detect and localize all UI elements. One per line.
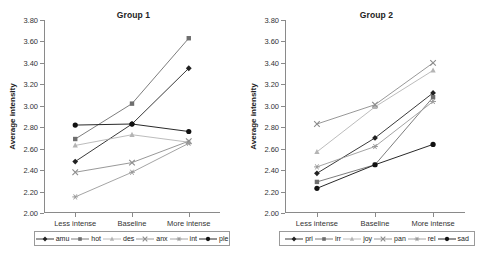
legend-marker-square-icon [70,234,90,244]
data-point-marker-asterisk [176,236,181,240]
y-axis-tick-label: 3.60 [264,37,279,46]
series-line [75,141,189,172]
y-axis-tick-label: 3.80 [264,16,279,25]
legend-item-pan[interactable]: pan [373,234,407,244]
legend-item-sad[interactable]: sad [437,234,470,244]
x-axis-tick [189,213,190,217]
x-axis-tick-label: Less intense [296,219,338,228]
legend-marker-cross-icon [373,234,393,244]
data-point-marker-diamond [72,159,78,165]
data-point-marker-square [187,36,191,40]
y-axis-tick-label: 2.40 [23,166,38,175]
data-point-marker-triangle [430,67,435,72]
x-axis-tick [433,213,434,217]
y-axis-tick-label: 2.60 [23,144,38,153]
legend-item-anx[interactable]: anx [135,234,168,244]
legend-marker-circle-icon [198,234,218,244]
y-axis-tick [40,170,44,171]
panel-title-group-2: Group 2 [245,10,490,20]
series-layer-group-1 [44,20,220,213]
y-axis-tick-label: 2.00 [23,209,38,218]
data-point-marker-circle [372,162,377,167]
y-axis-tick [281,41,285,42]
legend-item-int[interactable]: int [169,234,198,244]
data-point-marker-cross [430,60,436,66]
legend-marker-triangle-icon [102,234,122,244]
plot-area-group-2: 3.803.603.403.203.002.802.602.402.202.00… [285,20,465,213]
data-point-marker-square [73,137,77,141]
data-point-marker-square [431,95,435,99]
legend-label: irr [334,235,342,242]
y-axis-tick [40,41,44,42]
legend-marker-square-icon [314,234,334,244]
legend-label: pan [393,235,407,242]
data-point-marker-circle [73,122,78,127]
y-axis-tick [281,149,285,150]
y-axis-tick [281,106,285,107]
legend-marker-circle-icon [437,234,457,244]
data-point-marker-asterisk [129,170,135,175]
chart-panel-group-1: Group 1 Average intensity 3.803.603.403.… [0,0,245,254]
y-axis-tick [281,20,285,21]
y-axis-title-group-2: Average intensity [249,69,258,165]
data-point-marker-circle [129,121,134,126]
legend-group-1: amuhotdesanxintple [34,231,230,246]
data-point-marker-circle [314,186,319,191]
legend-item-pri[interactable]: pri [284,234,314,244]
legend-marker-asterisk-icon [407,234,427,244]
y-axis-tick-label: 2.80 [23,123,38,132]
y-axis-tick-label: 3.00 [23,101,38,110]
legend-item-ple[interactable]: ple [198,234,229,244]
legend-label: joy [362,235,373,242]
y-axis-tick-label: 3.80 [23,16,38,25]
y-axis-tick [40,213,44,214]
y-axis-tick [40,192,44,193]
legend-label: anx [155,235,168,242]
y-axis-tick [40,149,44,150]
y-axis-tick-label: 2.40 [264,166,279,175]
y-axis-tick-label: 2.60 [264,144,279,153]
legend-label: int [189,235,198,242]
y-axis-tick-label: 3.40 [264,58,279,67]
y-axis-tick-label: 3.60 [23,37,38,46]
y-axis-tick [281,170,285,171]
x-axis-tick-label: Baseline [118,219,147,228]
x-axis-tick [375,213,376,217]
y-axis-tick [40,20,44,21]
data-point-marker-square [315,180,319,184]
x-axis-tick-label: Baseline [361,219,390,228]
data-point-marker-diamond [42,236,47,241]
chart-panel-group-2: Group 2 Average intensity 3.803.603.403.… [245,0,490,254]
x-axis-tick-label: Less intense [54,219,96,228]
legend-item-rel[interactable]: rel [407,234,437,244]
legend-marker-asterisk-icon [169,234,189,244]
x-axis-tick [75,213,76,217]
y-axis-tick [281,192,285,193]
y-axis-tick [40,127,44,128]
data-point-marker-circle [186,129,191,134]
legend-marker-diamond-icon [284,234,304,244]
series-line [75,143,189,197]
legend-label: amu [55,235,71,242]
data-point-marker-asterisk [414,236,419,240]
legend-item-joy[interactable]: joy [342,234,373,244]
legend-item-des[interactable]: des [102,234,135,244]
data-point-marker-circle [430,142,435,147]
data-point-marker-asterisk [72,194,78,199]
legend-label: hot [90,235,102,242]
data-point-marker-asterisk [314,164,320,169]
legend-label: rel [427,235,437,242]
figure-two-panel-line-chart: Group 1 Average intensity 3.803.603.403.… [0,0,490,254]
series-anx [72,138,191,175]
legend-item-irr[interactable]: irr [314,234,342,244]
legend-item-hot[interactable]: hot [70,234,102,244]
y-axis-tick-label: 2.20 [264,187,279,196]
series-sad [314,142,435,191]
data-point-marker-square [78,237,82,241]
data-point-marker-circle [444,236,448,240]
legend-item-amu[interactable]: amu [35,234,71,244]
y-axis-tick-label: 3.20 [264,80,279,89]
y-axis-tick-label: 3.40 [23,58,38,67]
data-point-marker-cross [314,121,320,127]
data-point-marker-circle [206,236,210,240]
